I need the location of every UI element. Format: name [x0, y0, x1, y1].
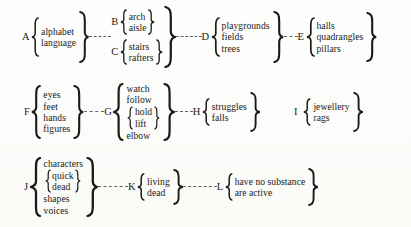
list-item: rafters	[129, 52, 154, 63]
connector-a-bc	[89, 36, 111, 38]
list-item: quick	[52, 170, 74, 181]
left-brace-icon	[137, 169, 145, 205]
list-item: elbow	[126, 130, 159, 141]
list-item: voices	[44, 205, 83, 216]
right-brace-icon	[85, 157, 98, 217]
list-item: arch	[129, 11, 147, 22]
left-brace-icon	[30, 157, 42, 217]
list-item: dead	[147, 187, 170, 198]
right-brace-icon	[148, 9, 155, 35]
list-item: stairs	[129, 41, 154, 52]
nested-group-g-holdlift: hold lift	[127, 106, 159, 130]
list-item: pillars	[317, 43, 364, 54]
right-brace-icon	[156, 39, 163, 65]
group-j: J characters quick dead	[24, 157, 98, 217]
brace-group-j: characters quick dead shapes	[30, 157, 98, 217]
brace-group-e: halls quadrangles pillars	[306, 12, 378, 62]
group-label-k: K	[128, 182, 137, 193]
right-brace-icon	[75, 169, 81, 193]
nested-group-j-quickdead: quick dead	[45, 169, 83, 193]
list-item: language	[41, 37, 76, 48]
group-l: L have no substance are active	[217, 168, 319, 206]
diagram-row-2: F eyes feet hands figures G	[0, 76, 411, 148]
brace-group-f: eyes feet hands figures	[31, 85, 84, 139]
group-label-f: F	[24, 107, 31, 118]
group-k-items: living dead	[145, 169, 172, 205]
right-brace-icon	[249, 92, 260, 132]
group-c: C stairs rafters	[111, 39, 162, 65]
brace-group-bc: B arch aisle	[111, 6, 175, 68]
group-c-items: stairs rafters	[127, 39, 156, 65]
left-brace-icon	[303, 92, 311, 132]
group-i: I jewellery rags	[294, 92, 363, 132]
group-e: E halls quadrangles pillars	[298, 12, 378, 62]
connector-d-e	[284, 36, 298, 38]
right-brace-icon	[163, 6, 176, 68]
diagram-row-3: J characters quick dead	[0, 150, 411, 224]
group-f: F eyes feet hands figures	[24, 85, 84, 139]
left-brace-icon	[211, 11, 220, 63]
right-brace-icon	[154, 106, 160, 130]
left-brace-icon	[120, 39, 127, 65]
group-label-c: C	[111, 47, 120, 58]
left-brace-icon	[202, 92, 210, 132]
group-a-items: alphabet language	[39, 11, 78, 63]
list-item: follow	[126, 94, 159, 105]
right-brace-icon	[272, 11, 284, 63]
nested-items-g: hold lift	[133, 106, 153, 130]
brace-group-l: have no substance are active	[225, 168, 319, 206]
group-l-items: have no substance are active	[233, 168, 308, 206]
list-item: hands	[43, 112, 70, 123]
list-item: alphabet	[41, 26, 76, 37]
list-item: quadrangles	[317, 31, 364, 42]
group-g-items: watch follow hold lift	[124, 83, 161, 141]
group-label-b: B	[111, 17, 120, 28]
list-item: lift	[135, 118, 152, 129]
list-item: jewellery	[313, 101, 349, 112]
right-brace-icon	[352, 92, 363, 132]
brace-group-i: jewellery rags	[303, 92, 362, 132]
group-label-i: I	[294, 107, 304, 118]
group-label-d: D	[202, 32, 211, 43]
list-item: trees	[222, 43, 270, 54]
right-brace-icon	[307, 168, 318, 206]
list-item: playgrounds	[222, 20, 270, 31]
right-brace-icon	[78, 11, 89, 63]
group-j-items: characters quick dead shapes	[42, 157, 85, 217]
group-label-l: L	[217, 182, 225, 193]
brace-group-a: alphabet language	[31, 11, 89, 63]
brace-group-c: stairs rafters	[120, 39, 163, 65]
right-brace-icon	[72, 85, 84, 139]
list-item: figures	[43, 123, 70, 134]
list-item: eyes	[43, 89, 70, 100]
group-f-items: eyes feet hands figures	[41, 85, 72, 139]
group-label-g: G	[104, 107, 113, 118]
group-d-items: playgrounds fields trees	[220, 11, 272, 63]
right-brace-icon	[162, 83, 175, 141]
left-brace-icon	[31, 85, 41, 139]
connector-k-l	[183, 186, 217, 188]
left-brace-icon	[31, 11, 39, 63]
right-brace-icon	[172, 169, 183, 205]
list-item: rags	[313, 112, 349, 123]
left-brace-icon	[306, 12, 315, 62]
left-brace-icon	[225, 168, 233, 206]
group-d: D playgrounds fields trees	[202, 11, 284, 63]
connector-f-g	[84, 111, 104, 113]
group-label-a: A	[22, 32, 31, 43]
list-item: falls	[212, 112, 247, 123]
list-item: are active	[235, 187, 306, 198]
right-brace-icon	[365, 12, 377, 62]
group-h-items: struggles falls	[210, 92, 249, 132]
group-e-items: halls quadrangles pillars	[315, 12, 366, 62]
list-item: living	[147, 176, 170, 187]
left-brace-icon	[120, 9, 127, 35]
list-item: fields	[222, 31, 270, 42]
connector-j-k	[98, 186, 128, 188]
group-bc: B arch aisle	[111, 6, 175, 68]
brace-group-k: living dead	[137, 169, 183, 205]
group-b: B arch aisle	[111, 9, 162, 35]
nested-items-j: quick dead	[51, 169, 76, 193]
brace-group-b: arch aisle	[120, 9, 156, 35]
list-item: shapes	[44, 193, 83, 204]
